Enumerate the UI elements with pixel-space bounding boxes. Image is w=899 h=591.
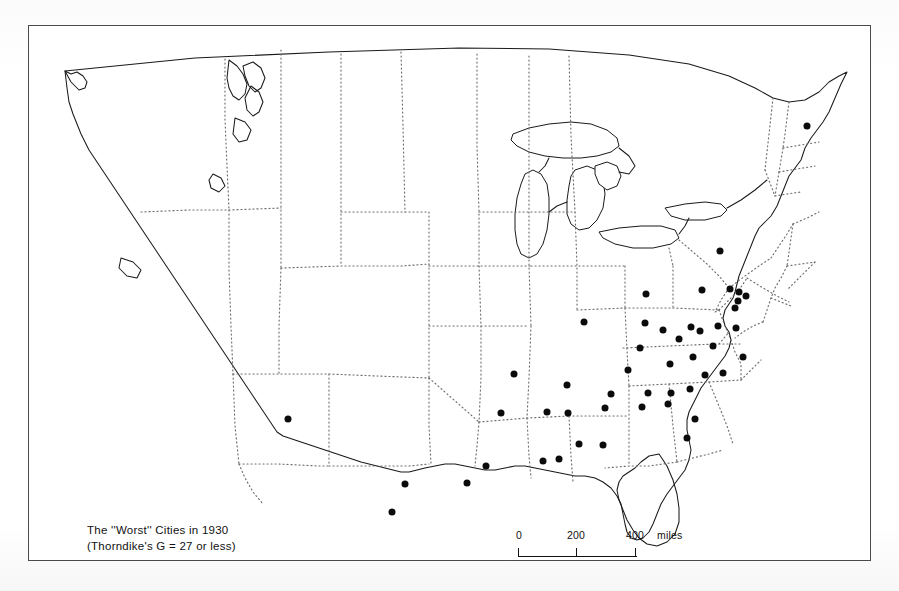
city-dot <box>643 291 650 298</box>
city-dot <box>464 480 471 487</box>
city-dot <box>625 367 632 374</box>
city-dot <box>684 435 691 442</box>
scale-tick-400 <box>635 548 636 557</box>
city-dot <box>645 390 652 397</box>
city-dot <box>720 370 727 377</box>
city-dot <box>498 410 505 417</box>
city-dot <box>565 410 572 417</box>
city-dot <box>732 305 739 312</box>
city-dot <box>576 441 583 448</box>
city-dot <box>544 409 551 416</box>
city-dot <box>717 248 724 255</box>
city-dot <box>727 286 734 293</box>
city-dot <box>735 298 742 305</box>
scale-label-0: 0 <box>516 529 522 541</box>
scale-label-200: 200 <box>567 529 585 541</box>
city-dot <box>665 401 672 408</box>
map-caption: The ''Worst'' Cities in 1930 (Thorndike'… <box>87 523 236 554</box>
caption-line-2: (Thorndike's G = 27 or less) <box>87 539 236 555</box>
city-dot <box>804 123 811 130</box>
figure-frame: The ''Worst'' Cities in 1930 (Thorndike'… <box>28 25 871 561</box>
scale-bar: 0 200 400 miles <box>516 529 666 565</box>
scale-unit-label: miles <box>657 529 683 541</box>
city-dot <box>687 386 694 393</box>
city-dot <box>402 481 409 488</box>
city-dot <box>668 390 675 397</box>
city-dot <box>667 361 674 368</box>
scale-bar-labels: 0 200 400 miles <box>516 529 666 545</box>
city-dot <box>676 336 683 343</box>
scale-tick-200 <box>576 548 577 557</box>
city-dot <box>692 416 699 423</box>
scale-tick-0 <box>518 548 519 557</box>
city-dot <box>740 354 747 361</box>
city-dot <box>697 328 704 335</box>
city-dot <box>389 509 396 516</box>
scale-axis-line <box>518 556 637 557</box>
city-dot <box>690 354 697 361</box>
city-dot <box>608 391 615 398</box>
city-dot <box>285 416 292 423</box>
city-dot-layer <box>285 123 811 516</box>
city-dot <box>483 463 490 470</box>
city-dot <box>715 323 722 330</box>
scale-label-400: 400 <box>626 529 644 541</box>
city-dot <box>639 404 646 411</box>
city-dot <box>733 325 740 332</box>
city-dot <box>600 442 607 449</box>
city-dot <box>736 289 743 296</box>
city-dot <box>642 320 649 327</box>
us-map <box>29 26 872 562</box>
city-dot <box>564 382 571 389</box>
city-dot <box>743 293 750 300</box>
city-dot <box>710 343 717 350</box>
scale-bar-rule <box>518 548 637 557</box>
city-dot <box>511 371 518 378</box>
city-dot <box>556 456 563 463</box>
city-dot <box>660 327 667 334</box>
city-dot <box>602 405 609 412</box>
city-dot <box>688 324 695 331</box>
city-dot <box>702 372 709 379</box>
city-dot <box>581 319 588 326</box>
city-dot <box>540 458 547 465</box>
city-dot <box>637 345 644 352</box>
city-dot <box>699 287 706 294</box>
caption-line-1: The ''Worst'' Cities in 1930 <box>87 523 236 539</box>
